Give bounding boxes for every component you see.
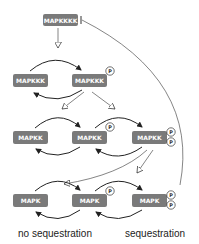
svg-text:P: P	[169, 192, 173, 198]
svg-text:P: P	[169, 129, 173, 135]
node-mapkkk: MAPKKK	[13, 74, 48, 87]
node-mapkk-pp: MAPKK	[132, 131, 167, 144]
phospho-icon: P	[106, 123, 114, 131]
svg-text:MAPKKK: MAPKKK	[75, 77, 104, 84]
svg-text:MAPK: MAPK	[80, 197, 100, 204]
svg-text:P: P	[108, 188, 112, 194]
activation-arrow	[92, 92, 115, 109]
svg-text:MAPKK: MAPKK	[137, 134, 162, 141]
dephosphorylation-arc	[96, 147, 142, 156]
phospho-icon: P	[167, 128, 175, 136]
svg-text:P: P	[108, 124, 112, 130]
svg-text:MAPKK: MAPKK	[77, 134, 102, 141]
activation-arrow	[137, 150, 153, 173]
svg-text:MAPKKK: MAPKKK	[16, 77, 45, 84]
phospho-icon: P	[106, 67, 114, 75]
phospho-icon: P	[167, 201, 175, 209]
svg-text:MAPK: MAPK	[140, 197, 160, 204]
dephosphorylation-arc	[36, 210, 80, 219]
node-mapkk: MAPKK	[13, 131, 48, 144]
svg-text:MAPKKKK: MAPKKKK	[44, 17, 78, 24]
svg-text:MAPKK: MAPKK	[18, 134, 43, 141]
node-mapk-p: MAPK	[72, 194, 107, 207]
phosphorylation-arc	[35, 118, 80, 128]
label-no-sequestration: no sequestration	[18, 228, 92, 239]
node-mapk: MAPK	[13, 194, 48, 207]
phospho-icon: P	[167, 138, 175, 146]
node-mapk-pp: MAPK	[132, 194, 167, 207]
phosphorylation-arc	[95, 118, 142, 128]
svg-text:P: P	[169, 139, 173, 145]
node-mapkkkk: MAPKKKK	[43, 14, 78, 26]
dephosphorylation-arc	[34, 90, 82, 99]
phosphorylation-arc	[95, 181, 142, 191]
label-sequestration: sequestration	[125, 228, 185, 239]
svg-text:P: P	[169, 202, 173, 208]
dephosphorylation-arc	[96, 210, 142, 219]
node-mapkk-p: MAPKK	[72, 131, 107, 144]
activation-arrow	[64, 150, 147, 184]
node-mapkkk-p: MAPKKK	[72, 74, 107, 87]
negative-feedback-line	[82, 20, 183, 185]
phospho-icon: P	[106, 187, 114, 195]
svg-text:P: P	[108, 68, 112, 74]
dephosphorylation-arc	[36, 147, 80, 155]
phosphorylation-arc	[30, 60, 81, 71]
svg-text:MAPK: MAPK	[21, 197, 41, 204]
phosphorylation-arc	[35, 181, 80, 191]
phospho-icon: P	[167, 191, 175, 199]
mapk-cascade-diagram: MAPKKKK MAPKKK MAPKKK P MAPKK MAPKK P MA…	[0, 0, 199, 244]
